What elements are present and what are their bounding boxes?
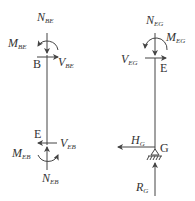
label-n-eg: NEG — [146, 14, 163, 28]
m-eb-arrow — [38, 155, 58, 161]
label-v-be: VBE — [58, 56, 74, 70]
node-g: G — [160, 142, 169, 154]
m-be-arrow — [38, 41, 58, 50]
label-v-eb: VEB — [60, 137, 76, 151]
node-e-left: E — [34, 128, 41, 140]
label-m-eb: MEB — [12, 147, 31, 161]
pin-support-icon — [151, 149, 159, 155]
label-m-eg: MEG — [166, 31, 185, 45]
node-b: B — [33, 58, 41, 70]
label-n-eb: NEB — [42, 172, 59, 186]
label-m-be: MBE — [8, 37, 27, 51]
label-v-eg: VEG — [121, 53, 138, 67]
label-r-g: RG — [136, 181, 148, 195]
m-eg-arrow — [145, 38, 167, 50]
label-h-g: HG — [131, 134, 145, 148]
node-e-right: E — [160, 62, 167, 74]
label-n-be: NBE — [37, 11, 54, 25]
